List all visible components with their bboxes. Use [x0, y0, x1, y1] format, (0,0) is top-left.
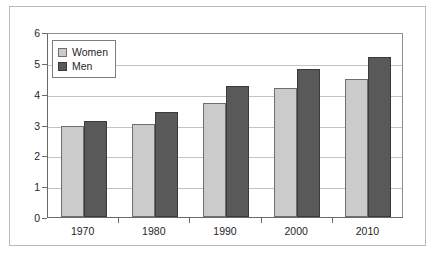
x-axis-tick-label: 1980	[124, 225, 184, 237]
bar-men-2000	[297, 69, 320, 217]
x-axis-tick-label: 2000	[266, 225, 326, 237]
y-axis-tick-label: 4	[6, 90, 40, 100]
legend-swatch-men-icon	[58, 62, 67, 71]
legend-item-women: Women	[58, 45, 108, 59]
bar-women-1990	[203, 103, 226, 217]
bar-men-2010	[368, 57, 391, 217]
y-axis-tick-label: 5	[6, 59, 40, 69]
legend-item-men: Men	[58, 59, 108, 73]
x-axis-tick-label: 1990	[195, 225, 255, 237]
chart-legend: Women Men	[52, 40, 116, 78]
y-axis-tick-label: 6	[6, 28, 40, 38]
x-axis-tick	[261, 218, 262, 223]
y-axis-tick	[42, 218, 47, 219]
bar-women-1980	[132, 124, 155, 217]
y-axis-tick-label: 3	[6, 121, 40, 131]
legend-label-men: Men	[72, 61, 92, 72]
y-axis-tick-label: 2	[6, 151, 40, 161]
x-axis-tick	[118, 218, 119, 223]
bar-women-2010	[345, 79, 368, 217]
x-axis-tick-label: 2010	[337, 225, 397, 237]
bar-men-1990	[226, 86, 249, 217]
x-axis-tick	[332, 218, 333, 223]
y-axis-tick-label: 0	[6, 213, 40, 223]
bar-women-1970	[61, 126, 84, 217]
x-axis-tick	[189, 218, 190, 223]
bar-men-1980	[155, 112, 178, 217]
legend-swatch-women-icon	[58, 48, 67, 57]
chart-figure: 0123456 19701980199020002010 Women Men	[0, 0, 437, 253]
x-axis-tick-label: 1970	[53, 225, 113, 237]
bar-women-2000	[274, 88, 297, 218]
legend-label-women: Women	[72, 47, 108, 58]
y-axis-tick-label: 1	[6, 182, 40, 192]
bar-men-1970	[84, 121, 107, 217]
